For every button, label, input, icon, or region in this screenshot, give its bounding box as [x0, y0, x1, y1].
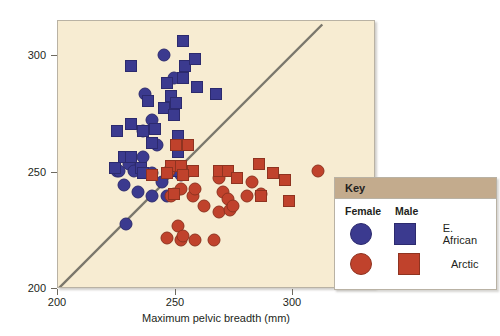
legend-male-swatch-cell	[395, 253, 445, 275]
point-arctic-male	[283, 195, 295, 207]
legend-label-arctic: Arctic	[445, 258, 479, 270]
point-e-african-male	[149, 123, 161, 135]
point-e-african-male	[125, 151, 137, 163]
point-e-african-male	[146, 137, 158, 149]
point-arctic-male	[177, 169, 189, 181]
x-tick-250	[175, 289, 176, 295]
x-tick-label-200: 200	[48, 296, 66, 308]
legend-row-arctic: Arctic	[345, 249, 486, 279]
point-arctic-female	[245, 176, 258, 189]
x-tick-label-300: 300	[283, 296, 301, 308]
legend-female-swatch-cell	[345, 253, 395, 275]
point-arctic-male	[170, 139, 182, 151]
point-e-african-female	[158, 48, 171, 61]
y-tick-250	[51, 172, 57, 173]
point-e-african-female	[118, 178, 131, 191]
point-e-african-male	[177, 35, 189, 47]
point-arctic-female	[188, 234, 201, 247]
point-arctic-female	[198, 199, 211, 212]
point-e-african-male	[177, 72, 189, 84]
y-tick-label-250: 250	[10, 166, 46, 178]
legend-square-e-african-icon	[394, 223, 416, 245]
legend-header-female: Female	[345, 205, 395, 217]
point-arctic-female	[188, 183, 201, 196]
scatter-plot-figure: 300 250 200 200 250 300 Maximum ulnar le…	[0, 0, 500, 336]
point-arctic-male	[255, 190, 267, 202]
y-tick-label-200: 200	[10, 282, 46, 294]
point-e-african-male	[142, 95, 154, 107]
point-arctic-male	[231, 172, 243, 184]
point-e-african-male	[125, 60, 137, 72]
point-e-african-male	[161, 77, 173, 89]
point-e-african-male	[189, 53, 201, 65]
legend-key: Key Female Male E. African	[334, 177, 497, 290]
legend-female-swatch-cell	[345, 223, 391, 245]
legend-row-e-african: E. African	[345, 219, 486, 249]
point-e-african-male	[111, 125, 123, 137]
legend-title: Key	[335, 178, 496, 199]
plot-area	[57, 20, 375, 288]
point-arctic-male	[182, 139, 194, 151]
legend-label-e-african: E. African	[437, 222, 486, 246]
x-tick-200	[57, 289, 58, 295]
point-arctic-male	[279, 174, 291, 186]
point-arctic-female	[160, 232, 173, 245]
legend-circle-e-african-icon	[350, 223, 372, 245]
point-e-african-female	[132, 185, 145, 198]
legend-circle-arctic-icon	[350, 253, 372, 275]
point-arctic-male	[168, 188, 180, 200]
point-e-african-female	[137, 150, 150, 163]
point-arctic-female	[311, 164, 324, 177]
point-e-african-male	[137, 125, 149, 137]
point-e-african-male	[210, 88, 222, 100]
y-tick-label-300: 300	[10, 49, 46, 61]
point-e-african-female	[120, 218, 133, 231]
x-tick-label-250: 250	[166, 296, 184, 308]
legend-male-swatch-cell	[391, 223, 437, 245]
point-arctic-male	[161, 167, 173, 179]
point-e-african-female	[146, 190, 159, 203]
y-tick-300	[51, 55, 57, 56]
point-e-african-male	[168, 109, 180, 121]
point-arctic-female	[226, 199, 239, 212]
point-e-african-male	[170, 97, 182, 109]
point-e-african-male	[109, 162, 121, 174]
legend-column-headers: Female Male	[345, 205, 486, 217]
point-arctic-female	[207, 234, 220, 247]
point-e-african-male	[191, 81, 203, 93]
point-arctic-male	[146, 169, 158, 181]
data-points-layer	[58, 21, 374, 287]
point-e-african-male	[125, 118, 137, 130]
point-arctic-male	[267, 167, 279, 179]
point-arctic-male	[253, 158, 265, 170]
legend-header-male: Male	[395, 205, 445, 217]
legend-square-arctic-icon	[398, 253, 420, 275]
x-tick-300	[292, 289, 293, 295]
legend-body: Female Male E. African Arctic	[335, 199, 496, 289]
x-axis-title: Maximum pelvic breadth (mm)	[57, 312, 375, 324]
point-arctic-female	[240, 190, 253, 203]
